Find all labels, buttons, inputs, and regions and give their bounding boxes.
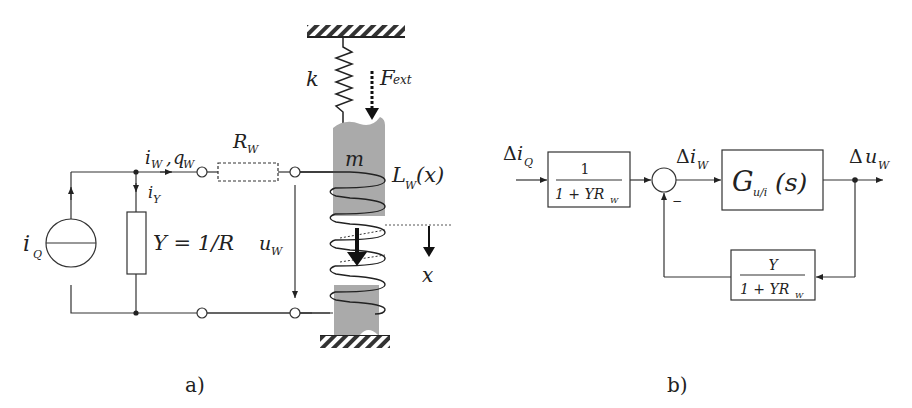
wire [71,285,312,313]
winding-resistor-icon [218,163,278,181]
summing-junction [652,168,676,192]
svg-text:W: W [610,196,619,205]
svg-text:u: u [865,145,877,167]
svg-text:(x): (x) [416,163,444,187]
svg-text:u: u [259,232,271,254]
svg-text:Q: Q [33,248,42,261]
svg-text:ext: ext [393,73,412,87]
svg-text:W: W [183,158,196,171]
svg-text:x: x [422,263,433,287]
label-i-q: i [23,231,30,256]
label-admittance: Y = 1/R [153,231,234,255]
svg-text:W: W [151,158,164,171]
svg-text:W: W [271,245,284,258]
svg-text:(s): (s) [775,168,807,197]
svg-text:i: i [145,147,151,168]
svg-text:W: W [697,159,710,172]
admittance-resistor-icon [127,212,146,274]
caption-a: a) [185,373,205,397]
svg-text:L: L [391,163,406,187]
pickoff-dot [852,177,858,183]
svg-text:u/i: u/i [753,186,767,199]
svg-text:Y: Y [153,193,162,206]
svg-text:W: W [795,291,804,300]
figure-canvas: i Q i W , q W i Y Y = 1/R R W u W k F ex… [0,0,912,408]
svg-text:1: 1 [581,161,590,177]
top-ground-icon [307,25,405,37]
force-arrow-icon [365,108,379,120]
caption-b: b) [667,373,688,397]
svg-text:i: i [690,145,696,167]
x-direction-arrow-icon [423,247,435,257]
svg-text:1 + YR: 1 + YR [740,281,790,297]
bottom-ground-icon [320,336,390,348]
svg-text:Δ: Δ [503,142,517,164]
svg-text:Q: Q [524,156,533,169]
svg-text:,: , [166,147,172,168]
svg-text:i: i [517,142,523,164]
summing-sign: − [672,194,682,208]
svg-text:Δ: Δ [849,145,863,167]
svg-text:R: R [232,130,247,152]
label-mass: m [345,147,364,171]
spring-icon [336,37,352,130]
svg-text:W: W [878,159,891,172]
svg-text:Δ: Δ [676,145,690,167]
svg-text:W: W [247,143,260,156]
svg-text:G: G [732,166,754,197]
displacement-arrow-icon [347,252,367,266]
panel-b-block-diagram [516,150,883,300]
svg-text:1 + YR: 1 + YR [555,186,605,202]
label-spring-k: k [306,67,319,91]
